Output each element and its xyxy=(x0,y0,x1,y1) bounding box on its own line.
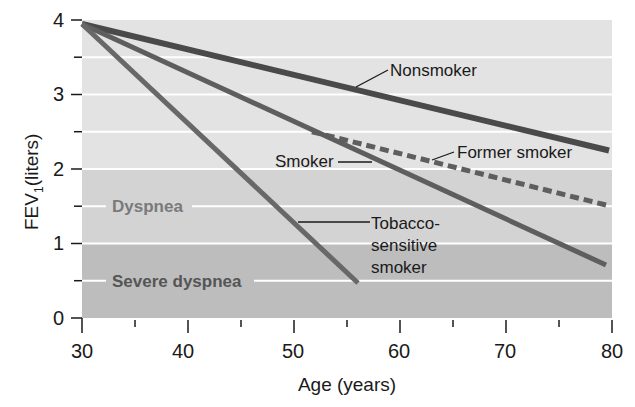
svg-text:1: 1 xyxy=(53,232,64,254)
tobacco-label-line3: smoker xyxy=(371,258,427,277)
severe-dyspnea-label: Severe dyspnea xyxy=(112,272,242,291)
fev1-age-chart: Dyspnea Severe dyspnea Nonsmoker Smoker … xyxy=(0,0,635,407)
svg-text:3: 3 xyxy=(53,83,64,105)
smoker-label: Smoker xyxy=(275,152,334,171)
y-axis-title: FEV1(liters) xyxy=(21,134,46,230)
tobacco-label-line1: Tobacco- xyxy=(371,214,440,233)
y-axis-labels: 4 3 2 1 0 xyxy=(53,9,64,329)
svg-text:40: 40 xyxy=(172,340,194,362)
former-smoker-label: Former smoker xyxy=(457,143,573,162)
nonsmoker-label: Nonsmoker xyxy=(390,61,477,80)
tobacco-label-line2: sensitive xyxy=(371,236,437,255)
svg-text:50: 50 xyxy=(282,340,304,362)
x-axis-title: Age (years) xyxy=(298,374,396,395)
svg-text:4: 4 xyxy=(53,9,64,31)
svg-text:60: 60 xyxy=(388,340,410,362)
svg-text:FEV1(liters): FEV1(liters) xyxy=(21,134,46,230)
dyspnea-label: Dyspnea xyxy=(112,197,183,216)
svg-text:2: 2 xyxy=(53,158,64,180)
svg-text:70: 70 xyxy=(494,340,516,362)
svg-text:80: 80 xyxy=(601,340,623,362)
x-axis-ticks xyxy=(82,318,612,333)
svg-text:0: 0 xyxy=(53,307,64,329)
y-axis-ticks xyxy=(71,20,82,318)
x-axis-labels: 30 40 50 60 70 80 xyxy=(71,340,623,362)
svg-text:30: 30 xyxy=(71,340,93,362)
